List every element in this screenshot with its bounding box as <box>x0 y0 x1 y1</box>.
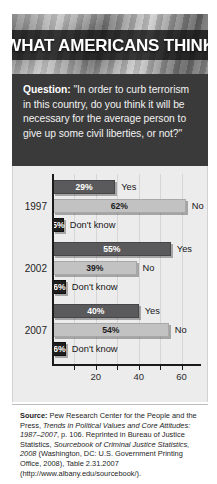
year-label-2007: 2007 <box>15 325 47 336</box>
bar-category-label: No <box>143 263 155 273</box>
bar-value-label: 39% <box>86 263 103 273</box>
bar-category-label: No <box>192 201 204 211</box>
bar-1997-no: 62% <box>53 199 186 213</box>
infographic-page: WHAT AMERICANS THINK Question: "In order… <box>0 0 217 484</box>
bar-value-label: 6% <box>53 344 65 354</box>
bar-2007-yes: 40% <box>53 304 139 318</box>
bar-value-label: 5% <box>52 220 64 230</box>
source-segment: (Washington, DC: U.S. Government Printin… <box>20 449 183 477</box>
bar-2002-dk: 6% <box>53 280 66 294</box>
bar-category-label: Yes <box>177 244 192 254</box>
y-axis <box>52 174 54 364</box>
source-label: Source: <box>20 411 48 420</box>
x-tick <box>96 366 97 370</box>
bar-value-label: 6% <box>53 282 65 292</box>
bar-2002-yes: 55% <box>53 242 171 256</box>
source-note: Source: Pew Research Center for the Peop… <box>12 404 208 480</box>
bar-category-label: Don't know <box>72 344 118 354</box>
bar-category-label: Yes <box>121 182 136 192</box>
question-box: Question: "In order to curb terrorism in… <box>12 74 208 166</box>
chart-panel: 29%Yes62%No5%Don't know55%Yes39%No6%Don'… <box>12 166 208 402</box>
bar-category-label: Don't know <box>72 282 118 292</box>
question-text: Question: "In order to curb terrorism in… <box>23 83 197 141</box>
bar-value-label: 40% <box>87 306 104 316</box>
bar-value-label: 54% <box>102 325 119 335</box>
bar-2007-no: 54% <box>53 323 169 337</box>
bar-2007-dk: 6% <box>53 342 66 356</box>
x-tick <box>139 366 140 370</box>
bar-category-label: Don't know <box>70 220 116 230</box>
bar-category-label: No <box>175 325 187 335</box>
x-tick-label: 20 <box>91 371 102 382</box>
year-label-1997: 1997 <box>15 201 47 212</box>
bar-category-label: Yes <box>145 306 160 316</box>
year-label-2002: 2002 <box>15 263 47 274</box>
bar-1997-yes: 29% <box>53 180 115 194</box>
source-body: Pew Research Center for the People and t… <box>20 411 197 478</box>
bar-value-label: 62% <box>111 201 128 211</box>
header-banner: WHAT AMERICANS THINK <box>12 14 208 74</box>
question-label: Question: <box>23 84 71 95</box>
x-tick <box>182 366 183 370</box>
page-title: WHAT AMERICANS THINK <box>12 30 208 60</box>
x-tick <box>74 366 75 370</box>
bar-1997-dk: 5% <box>53 218 64 232</box>
x-tick <box>117 366 118 370</box>
x-tick-label: 60 <box>176 371 187 382</box>
x-tick <box>160 366 161 370</box>
bar-value-label: 29% <box>75 182 92 192</box>
x-tick-label: 40 <box>133 371 144 382</box>
bar-value-label: 55% <box>103 244 120 254</box>
bar-2002-no: 39% <box>53 261 137 275</box>
plot-area: 29%Yes62%No5%Don't know55%Yes39%No6%Don'… <box>53 174 201 364</box>
